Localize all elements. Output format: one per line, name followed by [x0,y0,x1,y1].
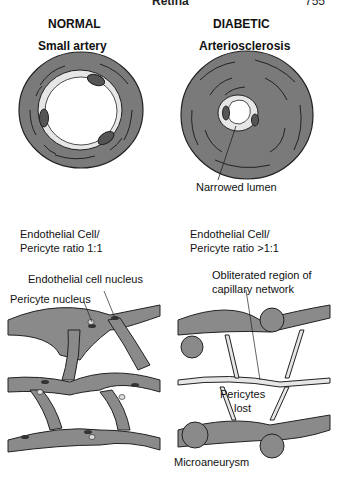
diabetic-capillary-network [178,290,330,458]
pericytes-lost-line1: Pericytes [220,388,265,401]
pericytes-lost-line2: lost [234,402,251,415]
narrowed-lumen-label: Narrowed lumen [196,181,277,194]
diabetic-heading: DIABETIC [213,17,270,31]
endothelial-nucleus-label: Endothelial cell nucleus [28,273,143,286]
normal-subheading: Small artery [38,39,107,53]
normal-ratio-line2: Pericyte ratio 1:1 [20,242,103,255]
normal-ratio-line1: Endothelial Cell/ [20,228,100,241]
normal-heading: NORMAL [48,17,101,31]
normal-capillary-network [8,305,160,452]
diabetic-artery-illustration [181,51,313,180]
diabetic-ratio-line1: Endothelial Cell/ [190,228,270,241]
pericyte-nucleus-label: Pericyte nucleus [10,293,91,306]
obliterated-label-line2: capillary network [212,283,294,296]
diabetic-subheading: Arteriosclerosis [199,39,290,53]
obliterated-label-line1: Obliterated region of [212,269,312,282]
microaneurysm-label: Microaneurysm [174,456,249,469]
normal-artery-illustration [19,52,143,168]
diabetic-ratio-line2: Pericyte ratio >1:1 [190,242,279,255]
